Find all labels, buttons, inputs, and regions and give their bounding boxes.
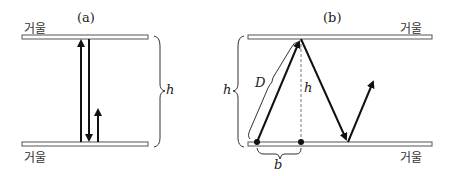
- height-label-a: h: [166, 82, 174, 97]
- mirror-top-label-b: 거울: [400, 19, 422, 36]
- height-label-center-b: h: [304, 80, 312, 95]
- base-label-b: b: [274, 157, 282, 172]
- height-label-left-b: h: [223, 82, 231, 97]
- diagonal-brace-b: [249, 42, 299, 139]
- light-ray-diagonal-up-b: [257, 42, 299, 142]
- diagonal-label-b: D: [255, 75, 265, 90]
- mirror-bottom-label-a: 거울: [24, 148, 46, 165]
- height-brace-left-b: [233, 36, 244, 147]
- mirror-bottom-label-b: 거울: [400, 148, 422, 165]
- mirror-bottom-b: [248, 142, 432, 146]
- mirror-bottom-a: [22, 142, 148, 146]
- panel-a: [22, 35, 165, 147]
- panel-b-label: (b): [323, 10, 341, 25]
- height-brace-a: [154, 36, 165, 147]
- midpoint-dot-b: [298, 139, 304, 145]
- panel-b: [233, 35, 432, 159]
- panel-a-label: (a): [77, 10, 95, 25]
- light-ray-diagonal-up2-b: [348, 82, 373, 142]
- start-point-dot-b: [254, 139, 260, 145]
- mirror-top-label-a: 거울: [24, 19, 46, 36]
